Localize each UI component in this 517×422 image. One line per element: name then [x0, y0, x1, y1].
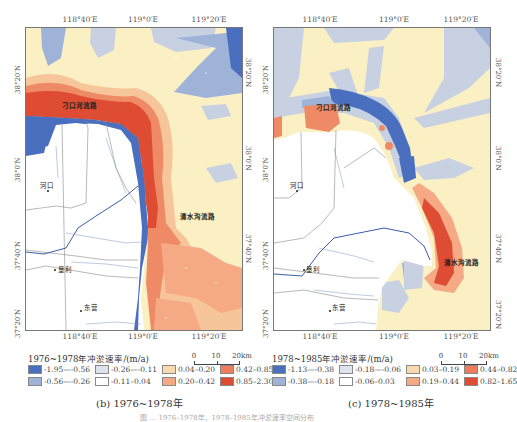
legend-label: 0.04–0.20	[178, 365, 215, 374]
left-tick-37-20: 37°20′N	[14, 309, 22, 338]
label-qingshuigou-channel: 清水沟流路	[444, 257, 479, 267]
legend-label: -1.95—-0.56	[44, 365, 90, 374]
legend-swatch	[162, 365, 176, 374]
scale-label-10: 10	[459, 352, 468, 360]
legend-item: -0.18—-0.06	[339, 365, 401, 374]
dongying-marker	[329, 310, 331, 312]
label-qingshuigou-channel: 清水沟流路	[180, 211, 215, 221]
right-tick-37-20: 37°20′N	[494, 300, 502, 329]
map-panel-1976-1978: 118°40′E 119°0′E 119°20′E 38°20′N 38°0′N…	[0, 0, 258, 418]
figure-caption-partial: 图 … 1976–1978年、1978–1985年冲淤速率空间分布	[140, 412, 314, 422]
legend-item: 0.20–0.42	[162, 377, 215, 386]
legend-label: -0.26—-0.11	[111, 365, 157, 374]
legend-label: -0.11–0.04	[111, 377, 151, 386]
label-diaokou-channel: 刁口河流路	[316, 102, 351, 112]
top-tick-118-40: 118°40′E	[303, 15, 338, 24]
scale-label-20km: 20km	[479, 352, 499, 360]
legend-label: -1.13—-0.38	[288, 365, 334, 374]
legend-swatch	[162, 377, 176, 386]
right-tick-38-0: 38°0′N	[244, 146, 252, 171]
legend-label: 0.19–0.44	[422, 377, 459, 386]
kenli-marker	[303, 269, 305, 271]
scale-label-20km: 20km	[232, 352, 252, 360]
left-tick-37-40: 37°40′N	[262, 241, 270, 270]
left-tick-37-20: 37°20′N	[262, 309, 270, 338]
left-tick-38-0: 38°0′N	[14, 157, 22, 182]
dongying-marker	[80, 310, 82, 312]
legend-swatch	[220, 365, 234, 374]
legend-label: -0.38—-0.18	[288, 377, 334, 386]
legend-swatch	[339, 377, 353, 386]
bottom-tick-119-0: 119°0′E	[128, 332, 158, 341]
legend-item: -1.13—-0.38	[272, 365, 334, 374]
bottom-tick-119-20: 119°20′E	[444, 332, 479, 341]
erosion-deposition-map-b	[25, 27, 243, 331]
legend-label: 0.44–0.82	[480, 365, 517, 374]
legend-item: 0.44–0.82	[464, 365, 517, 374]
bottom-tick-119-0: 119°0′E	[379, 332, 409, 341]
panel-caption: (c) 1978~1985年	[348, 395, 434, 410]
hekou-marker	[47, 190, 49, 192]
scale-label-0: 0	[192, 352, 196, 360]
legend-swatch	[272, 365, 286, 374]
top-tick-119-0: 119°0′E	[379, 15, 409, 24]
legend-swatch	[406, 377, 420, 386]
right-tick-37-40: 37°40′N	[244, 234, 252, 263]
legend-title: 1976~1978年冲淤速率/(m/a)	[28, 352, 149, 364]
label-diaokou-channel: 刁口河流路	[62, 100, 97, 110]
legend-item: -0.56—-0.26	[28, 377, 90, 386]
label-kenli: 垦利	[58, 264, 72, 274]
kenli-marker	[54, 269, 56, 271]
bottom-tick-118-40: 118°40′E	[63, 332, 98, 341]
legend-swatch	[95, 365, 109, 374]
legend-item: -1.95—-0.56	[28, 365, 90, 374]
legend: -1.95—-0.56 -0.26—-0.11 0.04–0.20 0.42–0…	[28, 365, 273, 386]
bottom-tick-118-40: 118°40′E	[303, 332, 338, 341]
legend-item: 0.82–1.65	[464, 377, 517, 386]
left-tick-38-0: 38°0′N	[262, 157, 270, 182]
bottom-tick-119-20: 119°20′E	[192, 332, 227, 341]
raster-map-c	[274, 28, 490, 330]
legend-item: -0.26—-0.11	[95, 365, 157, 374]
hekou-marker	[296, 190, 298, 192]
legend-label: -0.56—-0.26	[44, 377, 90, 386]
legend-swatch	[406, 365, 420, 374]
legend-item: -0.11–0.04	[95, 377, 157, 386]
left-tick-37-40: 37°40′N	[14, 241, 22, 270]
legend-label: 0.03–0.19	[422, 365, 459, 374]
legend-item: -0.38—-0.18	[272, 377, 334, 386]
top-tick-119-20: 119°20′E	[192, 15, 227, 24]
top-tick-119-20: 119°20′E	[444, 15, 479, 24]
top-tick-118-40: 118°40′E	[63, 15, 98, 24]
label-dongying: 东营	[332, 302, 346, 312]
erosion-deposition-map-c	[273, 27, 491, 331]
legend-label: -0.06–0.03	[355, 377, 395, 386]
right-tick-38-20: 38°20′N	[494, 58, 502, 87]
scale-bar: 0 10 20km	[439, 352, 499, 365]
legend-swatch	[28, 365, 42, 374]
panel-caption: (b) 1976~1978年	[96, 395, 183, 410]
legend-swatch	[339, 365, 353, 374]
scale-label-0: 0	[439, 352, 443, 360]
label-dongying: 东营	[84, 302, 98, 312]
legend-item: 0.03–0.19	[406, 365, 459, 374]
left-tick-38-20: 38°20′N	[14, 65, 22, 94]
legend-swatch	[28, 377, 42, 386]
legend-swatch	[95, 377, 109, 386]
scale-label-10: 10	[212, 352, 221, 360]
raster-map-b	[26, 28, 242, 330]
label-hekou: 河口	[290, 180, 304, 190]
left-tick-38-20: 38°20′N	[262, 65, 270, 94]
legend-swatch	[464, 377, 478, 386]
legend-item: 0.19–0.44	[406, 377, 459, 386]
legend-item: 0.04–0.20	[162, 365, 215, 374]
legend-label: -0.18—-0.06	[355, 365, 401, 374]
right-tick-38-0: 38°0′N	[494, 146, 502, 171]
legend-title: 1978~1985年冲淤速率/(m/a)	[272, 352, 393, 364]
label-hekou: 河口	[40, 180, 54, 190]
top-tick-119-0: 119°0′E	[128, 15, 158, 24]
legend-swatch	[220, 377, 234, 386]
label-kenli: 垦利	[306, 264, 320, 274]
map-panel-1978-1985: 118°40′E 119°0′E 119°20′E 38°20′N 38°0′N…	[258, 0, 516, 418]
legend-swatch	[272, 377, 286, 386]
